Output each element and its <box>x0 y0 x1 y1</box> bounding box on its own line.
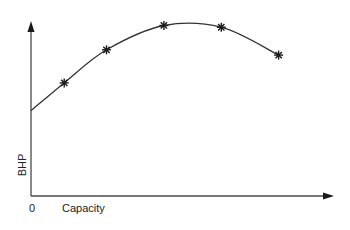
asterisk-marker-icon <box>159 21 168 30</box>
bhp-capacity-chart <box>0 0 350 230</box>
data-markers <box>60 21 283 87</box>
bhp-curve <box>31 23 279 111</box>
asterisk-marker-icon <box>217 23 226 32</box>
x-axis-label: Capacity <box>62 202 105 214</box>
y-axis-arrow-icon <box>28 21 35 32</box>
x-axis-arrow-icon <box>323 193 334 200</box>
asterisk-marker-icon <box>274 51 283 60</box>
y-axis-label: BHP <box>16 154 28 177</box>
asterisk-marker-icon <box>102 45 111 54</box>
origin-label: 0 <box>29 202 35 214</box>
